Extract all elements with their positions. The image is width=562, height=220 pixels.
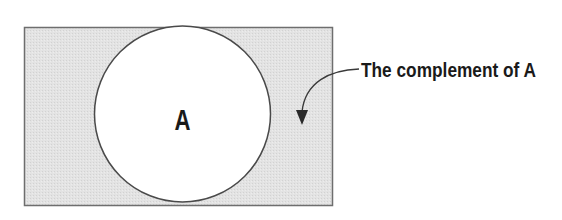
venn-diagram: A The complement of A (0, 0, 562, 220)
set-a-label: A (175, 103, 191, 136)
complement-annotation-label: The complement of A (361, 58, 536, 81)
